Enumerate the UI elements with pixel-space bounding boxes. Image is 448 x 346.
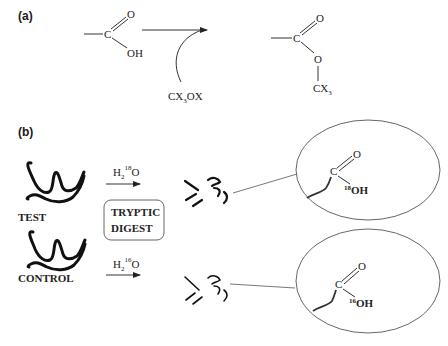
- reactant-carboxylic-acid: C O OH: [84, 8, 143, 59]
- reagent-h2-16o: H216O: [113, 256, 139, 273]
- bottom-connector: [230, 284, 295, 288]
- top-inset-carbonyl-o: O: [353, 148, 361, 160]
- reagent-h2-18o: H218O: [113, 164, 139, 181]
- product-ester-o: O: [314, 53, 322, 65]
- reactant-hydroxyl: OH: [127, 47, 143, 59]
- control-label: CONTROL: [18, 272, 74, 284]
- panel-b-label: (b): [18, 125, 33, 139]
- test-protein-icon: [27, 163, 84, 202]
- box-line-1: TRYPTIC: [111, 206, 160, 218]
- top-inset-carbon: C: [330, 165, 337, 177]
- reagent-label: CX3OX: [168, 90, 203, 105]
- reactant-carbon: C: [104, 28, 111, 40]
- product-carbon: C: [293, 32, 300, 44]
- reactant-carbonyl-o: O: [127, 8, 135, 20]
- product-carbonyl-o: O: [316, 12, 324, 24]
- tryptic-digest-box: TRYPTIC DIGEST: [104, 200, 164, 240]
- control-peptide-fragments-icon: [185, 276, 227, 304]
- reagent-curved-arrow: [176, 30, 202, 82]
- product-ester: C O O CX3: [271, 12, 332, 97]
- product-group: CX3: [313, 82, 332, 97]
- box-line-2: DIGEST: [111, 222, 153, 234]
- test-peptide-fragments-icon: [185, 178, 227, 206]
- bottom-inset-16oh: 16OH: [349, 297, 374, 309]
- inset-18o-carboxyl: C O 18OH: [296, 120, 440, 220]
- inset-16o-carboxyl: C O 16OH: [296, 229, 440, 333]
- diagram-canvas: (a) C O OH CX3OX C O O CX3 (b) TEST CONT…: [0, 0, 448, 346]
- control-protein-icon: [28, 232, 85, 270]
- top-connector: [233, 174, 297, 193]
- top-inset-18oh: 18OH: [344, 184, 369, 196]
- bottom-inset-carbonyl-o: O: [358, 260, 366, 272]
- panel-a-label: (a): [18, 9, 33, 23]
- test-label: TEST: [18, 211, 47, 223]
- bottom-inset-carbon: C: [335, 278, 342, 290]
